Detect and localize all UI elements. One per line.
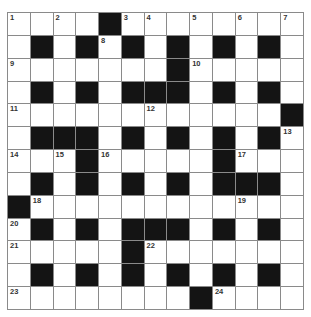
answer-cell[interactable]	[54, 264, 77, 287]
answer-cell[interactable]	[31, 150, 54, 173]
answer-cell[interactable]	[167, 241, 190, 264]
answer-cell[interactable]	[8, 36, 31, 59]
answer-cell[interactable]: 24	[213, 287, 236, 310]
answer-cell[interactable]	[99, 241, 122, 264]
answer-cell[interactable]: 1	[8, 13, 31, 36]
answer-cell[interactable]	[54, 104, 77, 127]
answer-cell[interactable]: 20	[8, 219, 31, 242]
answer-cell[interactable]	[236, 264, 259, 287]
answer-cell[interactable]	[31, 241, 54, 264]
answer-cell[interactable]	[236, 127, 259, 150]
answer-cell[interactable]	[8, 127, 31, 150]
answer-cell[interactable]	[122, 150, 145, 173]
answer-cell[interactable]: 9	[8, 59, 31, 82]
answer-cell[interactable]	[167, 287, 190, 310]
answer-cell[interactable]	[258, 196, 281, 219]
answer-cell[interactable]	[236, 287, 259, 310]
answer-cell[interactable]	[145, 150, 168, 173]
answer-cell[interactable]: 6	[236, 13, 259, 36]
answer-cell[interactable]	[213, 13, 236, 36]
answer-cell[interactable]: 19	[236, 196, 259, 219]
answer-cell[interactable]	[54, 196, 77, 219]
answer-cell[interactable]	[258, 241, 281, 264]
answer-cell[interactable]: 7	[281, 13, 304, 36]
answer-cell[interactable]	[190, 36, 213, 59]
answer-cell[interactable]	[281, 241, 304, 264]
answer-cell[interactable]: 3	[122, 13, 145, 36]
answer-cell[interactable]	[99, 287, 122, 310]
answer-cell[interactable]	[281, 59, 304, 82]
answer-cell[interactable]	[99, 264, 122, 287]
answer-cell[interactable]	[258, 287, 281, 310]
answer-cell[interactable]	[76, 196, 99, 219]
answer-cell[interactable]	[145, 36, 168, 59]
answer-cell[interactable]	[258, 104, 281, 127]
answer-cell[interactable]: 15	[54, 150, 77, 173]
answer-cell[interactable]: 2	[54, 13, 77, 36]
answer-cell[interactable]	[31, 104, 54, 127]
answer-cell[interactable]	[190, 82, 213, 105]
answer-cell[interactable]	[236, 59, 259, 82]
answer-cell[interactable]	[190, 264, 213, 287]
answer-cell[interactable]	[122, 59, 145, 82]
answer-cell[interactable]	[99, 173, 122, 196]
answer-cell[interactable]	[145, 264, 168, 287]
answer-cell[interactable]	[99, 104, 122, 127]
answer-cell[interactable]	[281, 36, 304, 59]
answer-cell[interactable]	[54, 59, 77, 82]
answer-cell[interactable]	[99, 127, 122, 150]
answer-cell[interactable]	[122, 196, 145, 219]
answer-cell[interactable]	[281, 82, 304, 105]
answer-cell[interactable]	[54, 82, 77, 105]
answer-cell[interactable]	[236, 219, 259, 242]
answer-cell[interactable]	[99, 59, 122, 82]
answer-cell[interactable]	[99, 82, 122, 105]
answer-cell[interactable]	[167, 150, 190, 173]
answer-cell[interactable]	[190, 150, 213, 173]
answer-cell[interactable]	[213, 241, 236, 264]
answer-cell[interactable]	[167, 196, 190, 219]
answer-cell[interactable]	[76, 59, 99, 82]
answer-cell[interactable]	[31, 13, 54, 36]
answer-cell[interactable]	[236, 241, 259, 264]
answer-cell[interactable]	[258, 150, 281, 173]
answer-cell[interactable]	[8, 82, 31, 105]
answer-cell[interactable]	[236, 82, 259, 105]
answer-cell[interactable]	[145, 287, 168, 310]
answer-cell[interactable]	[8, 173, 31, 196]
answer-cell[interactable]: 22	[145, 241, 168, 264]
answer-cell[interactable]: 12	[145, 104, 168, 127]
answer-cell[interactable]: 4	[145, 13, 168, 36]
answer-cell[interactable]	[281, 219, 304, 242]
answer-cell[interactable]: 14	[8, 150, 31, 173]
answer-cell[interactable]	[99, 196, 122, 219]
answer-cell[interactable]	[76, 287, 99, 310]
answer-cell[interactable]	[145, 127, 168, 150]
answer-cell[interactable]	[54, 287, 77, 310]
answer-cell[interactable]	[213, 104, 236, 127]
answer-cell[interactable]: 21	[8, 241, 31, 264]
answer-cell[interactable]: 23	[8, 287, 31, 310]
answer-cell[interactable]: 5	[190, 13, 213, 36]
answer-cell[interactable]	[190, 196, 213, 219]
answer-cell[interactable]	[31, 59, 54, 82]
answer-cell[interactable]	[76, 241, 99, 264]
answer-cell[interactable]	[54, 173, 77, 196]
answer-cell[interactable]	[281, 264, 304, 287]
answer-cell[interactable]	[167, 104, 190, 127]
answer-cell[interactable]: 11	[8, 104, 31, 127]
answer-cell[interactable]	[190, 241, 213, 264]
answer-cell[interactable]	[8, 264, 31, 287]
answer-cell[interactable]	[122, 104, 145, 127]
answer-cell[interactable]	[145, 173, 168, 196]
answer-cell[interactable]	[258, 13, 281, 36]
answer-cell[interactable]	[54, 36, 77, 59]
answer-cell[interactable]	[145, 196, 168, 219]
answer-cell[interactable]: 18	[31, 196, 54, 219]
answer-cell[interactable]	[76, 13, 99, 36]
answer-cell[interactable]	[236, 36, 259, 59]
answer-cell[interactable]	[281, 196, 304, 219]
answer-cell[interactable]	[54, 241, 77, 264]
answer-cell[interactable]	[190, 127, 213, 150]
answer-cell[interactable]: 8	[99, 36, 122, 59]
